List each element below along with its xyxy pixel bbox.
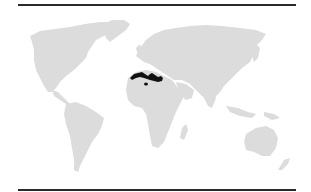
australia: [244, 126, 278, 156]
india: [204, 90, 216, 108]
new-guinea: [264, 112, 280, 120]
range-outlier: [144, 82, 148, 85]
greenland: [104, 20, 130, 42]
world-map: [0, 0, 311, 192]
central-america: [52, 90, 70, 104]
new-zealand: [278, 158, 290, 170]
madagascar: [180, 124, 188, 140]
africa: [126, 70, 184, 148]
bottom-rule: [18, 189, 296, 191]
continents: [30, 20, 290, 172]
south-america: [64, 102, 104, 172]
indonesia: [226, 106, 256, 118]
